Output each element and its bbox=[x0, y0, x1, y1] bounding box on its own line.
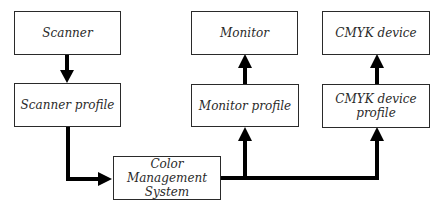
node-cmyk-device-profile: CMYK device profile bbox=[322, 84, 430, 128]
node-monitor: Monitor bbox=[191, 11, 298, 55]
node-cmyk-device: CMYK device bbox=[322, 11, 430, 55]
node-scanner-profile: Scanner profile bbox=[14, 83, 121, 127]
node-monitor-profile: Monitor profile bbox=[191, 84, 299, 127]
arrow-cmyk-profile-to-device bbox=[370, 54, 384, 84]
arrow-scanner-profile-to-cms bbox=[68, 126, 112, 186]
node-scanner: Scanner bbox=[14, 11, 121, 55]
arrow-cms-to-profiles bbox=[220, 127, 384, 178]
arrow-monitor-profile-to-monitor bbox=[238, 54, 252, 84]
color-management-diagram: Scanner Scanner profile Color Management… bbox=[0, 0, 442, 210]
arrow-scanner-to-profile bbox=[60, 54, 74, 83]
node-color-management-system: Color Management System bbox=[113, 156, 221, 200]
